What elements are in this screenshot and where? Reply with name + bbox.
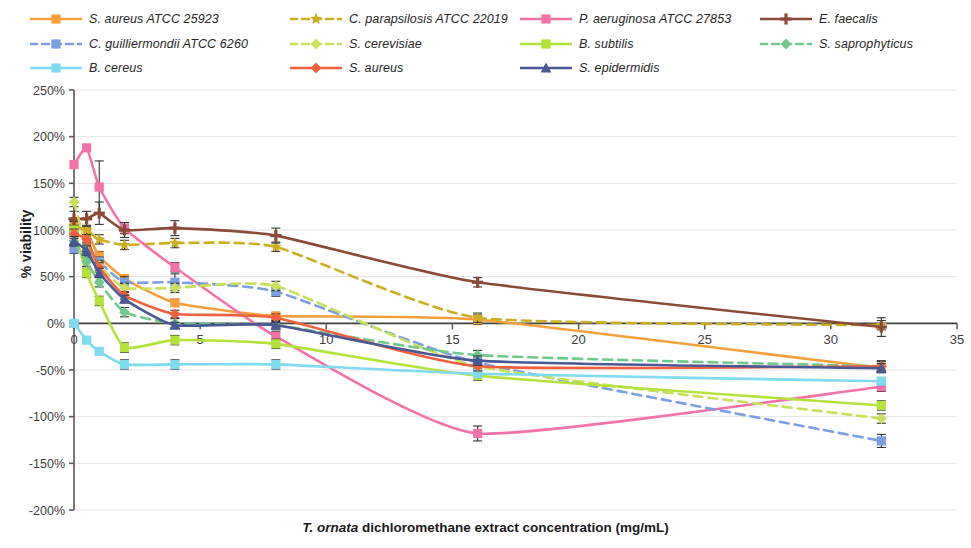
legend-marker (780, 13, 791, 24)
legend-item[interactable]: B. cereus (30, 57, 143, 79)
series-line (74, 226, 881, 368)
marker-bar-v (476, 277, 479, 288)
error-bars (95, 161, 886, 441)
data-point (170, 263, 179, 272)
legend-item[interactable]: S. aureus ATCC 25923 (30, 8, 219, 30)
legend-swatch (290, 37, 342, 51)
y-axis-tick-label: -200% (29, 504, 65, 518)
data-point (95, 347, 104, 356)
x-axis-title-species: T. ornata (302, 520, 358, 535)
error-bars (70, 197, 886, 423)
legend-marker (541, 39, 550, 48)
x-axis-tick-label: 0 (70, 332, 77, 347)
legend-item[interactable]: C. parapsilosis ATCC 22019 (290, 8, 508, 30)
y-axis-tick-label: -50% (36, 364, 65, 378)
legend-marker (541, 14, 550, 23)
legend-item[interactable]: S. cerevisiae (290, 33, 422, 55)
legend-item[interactable]: S. aureus (290, 57, 403, 79)
data-point (81, 213, 92, 224)
legend-label: C. guilliermondii ATCC 6260 (89, 37, 248, 51)
data-point (270, 230, 281, 241)
data-point (169, 223, 180, 234)
series-5 (69, 197, 887, 424)
legend-label: S. aureus ATCC 25923 (89, 12, 219, 26)
marker-bar-v (274, 230, 277, 241)
data-point (876, 413, 887, 424)
marker-bar-v (98, 208, 101, 219)
legend-swatch (290, 61, 342, 75)
legend-item[interactable]: S. saprophyticus (760, 33, 913, 55)
data-point (877, 436, 886, 445)
legend-item[interactable]: S. epidermidis (520, 57, 660, 79)
y-axis-tick-label: 250% (33, 84, 65, 98)
legend-item[interactable]: B. subtilis (520, 33, 634, 55)
data-point (82, 336, 91, 345)
legend-marker (51, 39, 60, 48)
x-axis: 05101520253035 (70, 323, 964, 347)
x-axis-tick-label: 20 (571, 332, 585, 347)
data-point (472, 277, 483, 288)
data-point (877, 377, 886, 386)
legend-swatch (520, 37, 572, 51)
legend-swatch (520, 12, 572, 26)
marker-bar-v (72, 213, 75, 224)
series-group (68, 143, 887, 447)
data-point (69, 197, 80, 208)
data-point (120, 343, 129, 352)
x-axis-title-rest: dichloromethane extract concentration (m… (358, 520, 669, 535)
legend-marker (781, 39, 792, 50)
marker-bar-v (85, 213, 88, 224)
legend-swatch (30, 61, 82, 75)
y-axis-tick-label: 50% (40, 270, 65, 284)
legend-marker (51, 14, 60, 23)
legend-swatch (30, 37, 82, 51)
y-axis-tick-label: -100% (29, 410, 65, 424)
legend-swatch (520, 61, 572, 75)
data-point (170, 298, 179, 307)
legend-label: B. subtilis (579, 37, 634, 51)
y-axis-tick-label: 100% (33, 224, 65, 238)
legend-item[interactable]: E. faecalis (760, 8, 878, 30)
data-point (170, 336, 179, 345)
data-point (473, 429, 482, 438)
data-point (271, 339, 280, 348)
legend-marker (311, 39, 322, 50)
marker-bar-v (880, 321, 883, 332)
series-line (74, 234, 881, 368)
y-axis-tick-label: 150% (33, 177, 65, 191)
x-axis-tick-label: 15 (445, 332, 459, 347)
legend-label: P. aeruginosa ATCC 27853 (579, 12, 731, 26)
series-line (74, 202, 881, 419)
data-point (271, 360, 280, 369)
legend-swatch (290, 12, 342, 26)
legend-label: E. faecalis (819, 12, 878, 26)
data-point (120, 360, 129, 369)
data-point (69, 160, 78, 169)
data-point (82, 143, 91, 152)
legend-label: C. parapsilosis ATCC 22019 (349, 12, 508, 26)
data-point (877, 401, 886, 410)
y-axis-title: % viability (18, 174, 34, 314)
series-line (74, 148, 881, 434)
data-point (95, 182, 104, 191)
x-axis-tick-label: 35 (950, 332, 964, 347)
plot-area: -200%-150%-100%-50%0%50%100%150%200%250%… (0, 0, 971, 548)
legend-label: S. saprophyticus (819, 37, 913, 51)
legend-swatch (760, 12, 812, 26)
series-line (74, 241, 881, 368)
x-axis-title: T. ornata dichloromethane extract concen… (0, 520, 971, 535)
data-point (170, 360, 179, 369)
legend-label: S. aureus (349, 61, 403, 75)
chart-legend: S. aureus ATCC 25923C. parapsilosis ATCC… (0, 0, 971, 80)
legend-swatch (760, 37, 812, 51)
legend-label: S. cerevisiae (349, 37, 422, 51)
series-line (74, 241, 881, 366)
gridlines (74, 90, 957, 510)
data-point (69, 319, 78, 328)
series-line (74, 226, 881, 325)
legend-item[interactable]: C. guilliermondii ATCC 6260 (30, 33, 248, 55)
marker-bar-v (784, 13, 787, 24)
legend-label: B. cereus (89, 61, 143, 75)
legend-item[interactable]: P. aeruginosa ATCC 27853 (520, 8, 731, 30)
y-axis-tick-label: 200% (33, 130, 65, 144)
